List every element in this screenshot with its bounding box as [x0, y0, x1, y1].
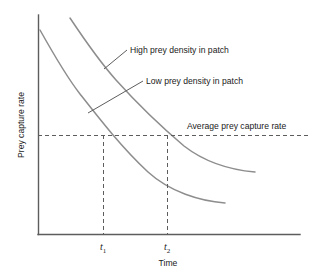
- prey-capture-rate-chart: High prey density in patch Low prey dens…: [0, 0, 319, 276]
- t2-subscript: 2: [167, 247, 171, 255]
- high-prey-density-leader-line: [104, 50, 127, 69]
- x-tick-label-t2: t2: [164, 241, 171, 255]
- low-prey-density-label: Low prey density in patch: [146, 76, 243, 86]
- low-prey-density-leader-line: [88, 81, 143, 113]
- high-prey-density-label: High prey density in patch: [130, 45, 229, 55]
- low-prey-density-curve: [40, 30, 225, 203]
- x-tick-label-t1: t1: [100, 241, 107, 255]
- y-axis-title: Prey capture rate: [16, 92, 26, 158]
- t1-subscript: 1: [103, 247, 107, 255]
- high-prey-density-curve: [70, 18, 255, 172]
- average-prey-capture-rate-label: Average prey capture rate: [187, 121, 286, 131]
- x-axis-title: Time: [159, 258, 178, 268]
